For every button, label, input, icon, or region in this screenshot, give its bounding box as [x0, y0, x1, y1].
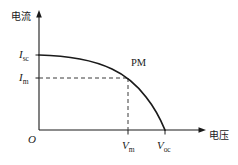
y-axis — [36, 10, 42, 130]
y-axis-title: 电流 — [11, 12, 31, 22]
pm-point-label: PM — [131, 58, 146, 69]
x-tick-label-voc: Voc — [157, 140, 170, 151]
im-subscript: m — [23, 77, 29, 86]
x-axis — [39, 127, 206, 133]
vm-subscript: m — [129, 145, 135, 154]
isc-subscript: sc — [23, 54, 29, 63]
vm-symbol: V — [122, 139, 129, 151]
iv-curve-figure: 电流 电压 Isc Im PM Vm Voc O — [0, 0, 238, 165]
y-tick-label-im: Im — [19, 72, 28, 83]
x-axis-ticks — [128, 130, 165, 135]
voc-subscript: oc — [164, 145, 171, 154]
guide-lines-dashed — [39, 78, 128, 130]
x-tick-label-vm: Vm — [122, 140, 134, 151]
y-tick-label-isc: Isc — [19, 49, 29, 60]
x-axis-title: 电压 — [209, 131, 229, 141]
origin-label: O — [28, 134, 36, 145]
voc-symbol: V — [157, 139, 164, 151]
